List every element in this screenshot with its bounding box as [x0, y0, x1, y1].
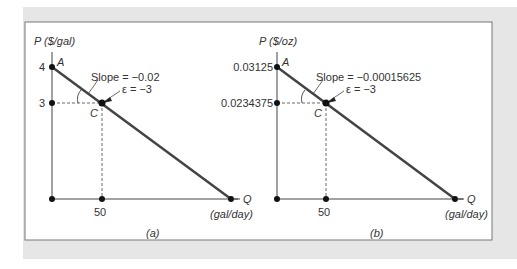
label-point-a-b: A [281, 56, 289, 68]
point-c-panel-a [99, 100, 106, 107]
point-c-panel-b [323, 100, 330, 107]
slope-annotation-a: Slope = −0.02 [91, 71, 160, 83]
point-a-panel-b [274, 64, 280, 70]
caption-b: (b) [370, 227, 384, 239]
origin-dot-a [49, 196, 55, 202]
x-tick-label-a: 50 [94, 206, 106, 218]
elasticity-annotation-a: ε = −3 [122, 83, 152, 95]
y-tick-dot-mid-b [274, 100, 280, 106]
y-tick-mid-b: 0.0234375 [221, 97, 273, 109]
caption-a: (a) [146, 227, 160, 239]
y-tick-high-b: 0.03125 [233, 61, 273, 73]
x-axis-symbol-a: Q [243, 193, 252, 205]
label-point-c-b: C [314, 107, 322, 119]
demand-elasticity-figure: P ($/gal) 4 3 A C Slope = −0.02 ε = −3 5… [0, 0, 517, 269]
label-point-a-a: A [56, 56, 64, 68]
slope-annotation-b: Slope = −0.00015625 [316, 71, 421, 83]
x-tick-dot-a [99, 196, 105, 202]
point-a-panel-a [49, 64, 55, 70]
y-axis-label-b: P ($/oz) [259, 35, 297, 47]
y-tick-mid-a: 3 [39, 97, 45, 109]
x-axis-units-a: (gal/day) [210, 208, 253, 220]
y-tick-high-a: 4 [39, 61, 45, 73]
y-tick-dot-mid-a [49, 100, 55, 106]
origin-dot-b [274, 196, 280, 202]
x-tick-dot-b [323, 196, 329, 202]
label-point-c-a: C [90, 107, 98, 119]
x-axis-units-b: (gal/day) [445, 208, 488, 220]
x-tick-label-b: 50 [318, 206, 330, 218]
y-axis-label-a: P ($/gal) [34, 35, 76, 47]
elasticity-annotation-b: ε = −3 [346, 83, 376, 95]
x-axis-symbol-b: Q [467, 193, 476, 205]
